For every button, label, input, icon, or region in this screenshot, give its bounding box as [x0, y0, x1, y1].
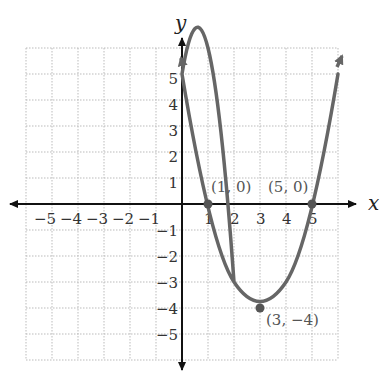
svg-text:4: 4: [282, 210, 292, 228]
svg-text:−4: −4: [156, 300, 178, 318]
svg-text:−2: −2: [112, 210, 134, 228]
svg-text:−3: −3: [86, 210, 108, 228]
svg-text:5: 5: [168, 70, 178, 88]
y-axis-label: y: [174, 11, 187, 35]
y-tick-labels: 5 4 3 2 1 −1 −2 −3 −4 −5: [156, 70, 178, 344]
svg-text:2: 2: [168, 148, 178, 166]
point-vertex: [256, 304, 265, 313]
svg-text:3: 3: [256, 210, 266, 228]
label-vertex: (3, −4): [266, 311, 319, 329]
parabola-graph: x y −5 −4 −3 −2 −1 1 2 3 4 5 5 4 3 2 1 −…: [0, 0, 390, 376]
svg-text:−2: −2: [156, 248, 178, 266]
point-x-intercept-1: [204, 200, 213, 209]
parabola-curve: [182, 27, 338, 301]
svg-text:−5: −5: [156, 326, 178, 344]
svg-text:1: 1: [168, 174, 178, 192]
x-axis-label: x: [368, 191, 379, 215]
svg-text:4: 4: [168, 96, 178, 114]
svg-text:−5: −5: [34, 210, 56, 228]
svg-text:−3: −3: [156, 274, 178, 292]
svg-text:−1: −1: [156, 222, 178, 240]
point-x-intercept-5: [308, 200, 317, 209]
label-point-1-0: (1, 0): [211, 178, 251, 196]
svg-text:3: 3: [168, 122, 178, 140]
svg-text:−4: −4: [60, 210, 82, 228]
label-point-5-0: (5, 0): [268, 178, 308, 196]
